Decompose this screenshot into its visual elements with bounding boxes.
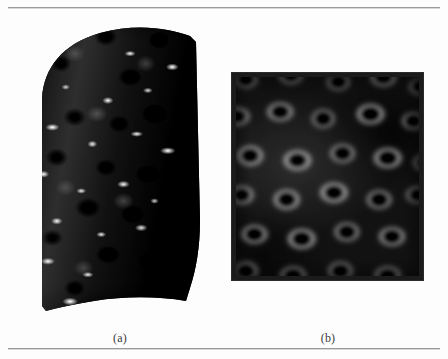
figure-panel-b: [232, 73, 423, 280]
figure-area: (a) (b): [0, 10, 448, 348]
panel-a-surface-clip: [28, 20, 210, 315]
figure-panel-a: [28, 20, 210, 315]
panel-b-bump-texture-image: [236, 77, 419, 276]
top-divider-rule-shadow: [8, 8, 440, 9]
bottom-divider-rule-shadow: [8, 349, 440, 350]
panel-a-caption: (a): [90, 331, 150, 346]
panel-a-bump-surface-image: [28, 20, 210, 315]
panel-b-caption: (b): [298, 331, 358, 346]
panel-b-image-frame: [236, 77, 419, 276]
